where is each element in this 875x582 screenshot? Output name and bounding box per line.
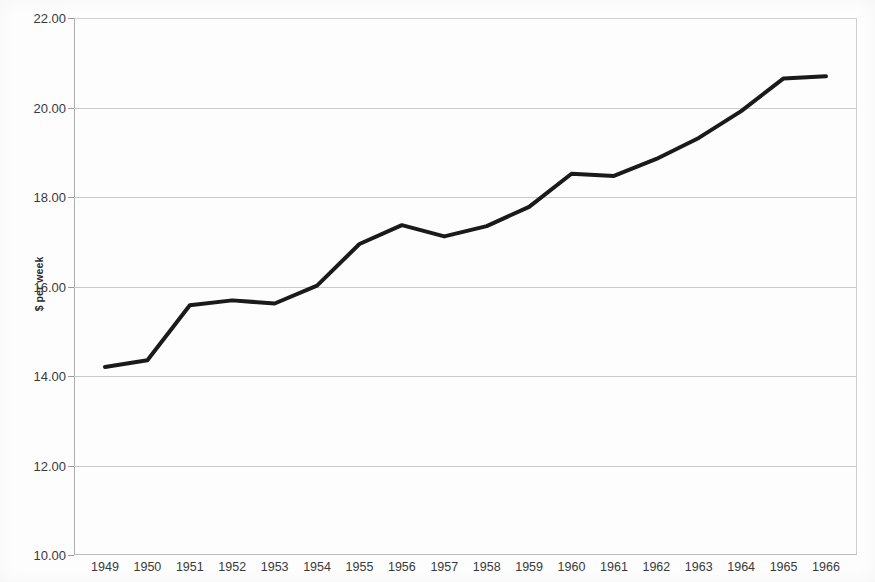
series-line-dollars-per-week: [105, 76, 826, 367]
y-axis-tick-label: 22.00: [10, 11, 66, 26]
y-axis-tick-label: 20.00: [10, 100, 66, 115]
y-axis-tick-label: 16.00: [10, 279, 66, 294]
y-axis-tick-label: 18.00: [10, 190, 66, 205]
chart-container: $ per week 10.0012.0014.0016.0018.0020.0…: [0, 0, 875, 582]
y-axis-tick-label: 14.00: [10, 369, 66, 384]
y-axis-tick-label: 12.00: [10, 458, 66, 473]
series-line-chart: [74, 18, 857, 555]
y-axis-tick-label: 10.00: [10, 548, 66, 563]
y-axis-tick-mark: [68, 555, 74, 556]
plot-area: [74, 18, 857, 555]
x-axis-tick-label: 1966: [796, 560, 856, 574]
x-axis-tick-labels: 1949195019511952195319541955195619571958…: [74, 560, 857, 582]
y-axis-tick-labels: 10.0012.0014.0016.0018.0020.0022.00: [10, 0, 66, 582]
